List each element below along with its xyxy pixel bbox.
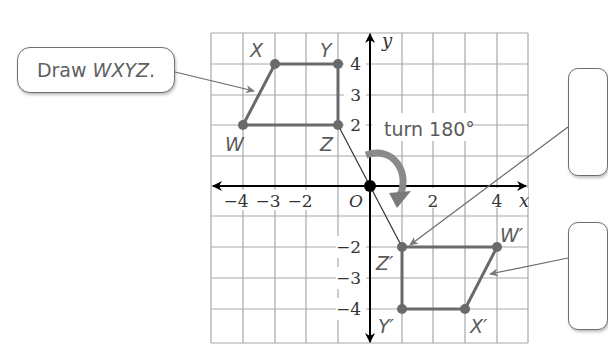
rotation-label: turn 180°: [384, 118, 475, 140]
y-tick: −4: [336, 299, 361, 319]
y-tick: 2: [350, 115, 361, 135]
label-x-prime: X′: [469, 315, 488, 337]
callout-right-top: [568, 68, 608, 176]
label-y: Y: [320, 39, 333, 61]
x-axis-label: x: [519, 190, 529, 211]
label-w: W: [225, 133, 245, 155]
leader-draw: [175, 72, 254, 91]
y-tick: −2: [336, 237, 361, 257]
y-tick: 4: [350, 54, 361, 74]
y-axis-label: y: [381, 30, 393, 51]
y-tick: −3: [336, 268, 361, 288]
label-w-prime: W′: [500, 224, 524, 246]
x-tick: 2: [428, 191, 439, 211]
label-z-prime: Z′: [375, 252, 394, 274]
origin-label: O: [349, 191, 363, 211]
y-tick: 3: [350, 85, 361, 105]
origin-point: [364, 180, 376, 192]
x-tick: −4: [223, 191, 248, 211]
x-tick: 4: [492, 191, 503, 211]
label-x: X: [249, 39, 264, 61]
x-tick: −3: [255, 191, 280, 211]
x-tick: −2: [287, 191, 312, 211]
leader-right-bottom: [490, 258, 568, 274]
label-z: Z: [319, 133, 334, 155]
label-y-prime: Y′: [378, 315, 395, 337]
callout-right-bottom: [568, 222, 608, 330]
